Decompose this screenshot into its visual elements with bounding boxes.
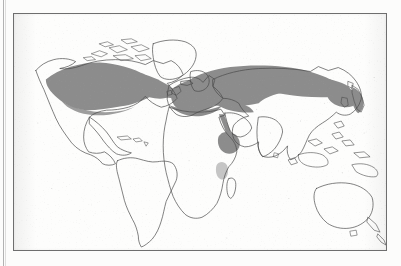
world-map bbox=[14, 14, 386, 250]
page-edge-line-secondary bbox=[5, 0, 6, 266]
page-canvas bbox=[0, 0, 401, 266]
map-frame-border bbox=[13, 13, 387, 251]
map-background bbox=[14, 14, 386, 250]
page-edge-line bbox=[3, 0, 4, 266]
